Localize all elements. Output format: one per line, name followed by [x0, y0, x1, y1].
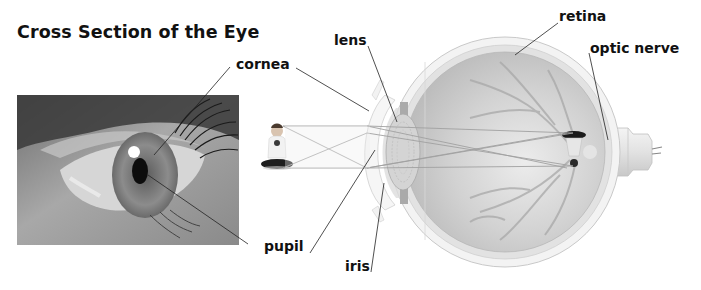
label-iris: iris — [345, 258, 370, 274]
label-optic-nerve: optic nerve — [590, 40, 679, 56]
label-lens: lens — [334, 32, 367, 48]
eye-photo — [17, 95, 239, 245]
eyeball-cross-section — [365, 37, 662, 267]
label-retina: retina — [559, 8, 606, 24]
label-pupil: pupil — [264, 238, 304, 254]
label-cornea: cornea — [236, 56, 290, 72]
